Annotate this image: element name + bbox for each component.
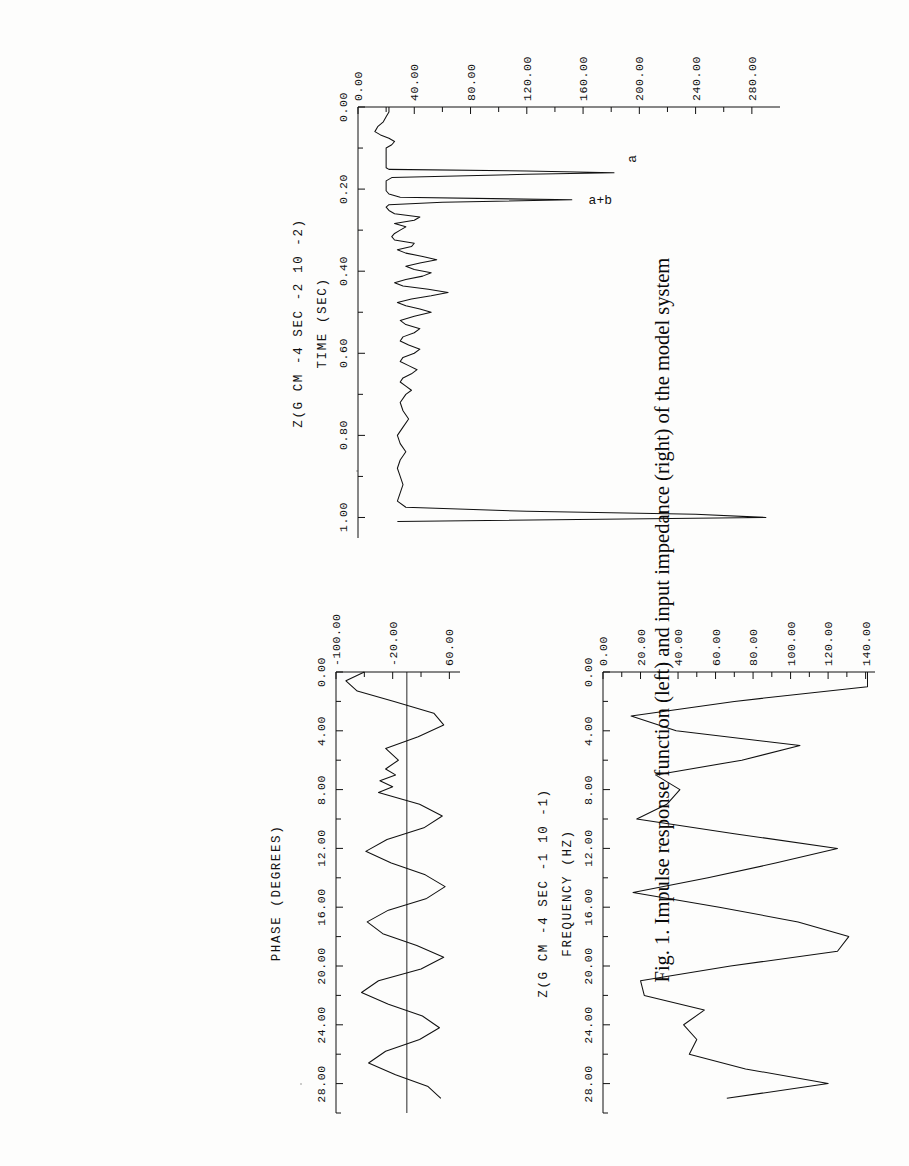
magnitude-x-tick-label: 4.00 (582, 716, 595, 746)
magnitude-x-tick-label: 0.00 (582, 657, 595, 687)
impedance-phase-plot (318, 598, 468, 1128)
impulse-y-tick-label: 40.00 (407, 63, 420, 101)
impulse-x-tick-label: 0.00 (337, 92, 350, 122)
impulse-y-axis-title: Z(G CM -4 SEC -2 10 -2) (292, 218, 306, 427)
magnitude-y-tick-label: 80.00 (746, 628, 759, 666)
phase-x-tick-label: 8.00 (315, 775, 328, 805)
phase-x-tick-label: 16.00 (315, 888, 328, 926)
phase-y-tick-label: 60.00 (442, 628, 455, 666)
phase-x-tick-label: 12.00 (315, 830, 328, 868)
magnitude-y-tick-label: 140.00 (859, 621, 872, 666)
magnitude-x-axis-title: FREQUENCY (HZ) (561, 829, 575, 956)
annotation-a: a (625, 155, 640, 163)
magnitude-y-tick-label: 100.00 (784, 621, 797, 666)
impulse-x-tick-label: 0.40 (337, 256, 350, 286)
magnitude-y-axis-title: Z(G CM -4 SEC -1 10 -1) (537, 788, 551, 997)
magnitude-x-tick-label: 12.00 (582, 830, 595, 868)
impulse-y-tick-label: 80.00 (464, 63, 477, 101)
impulse-x-tick-label: 0.60 (337, 338, 350, 368)
figure-page: 0.000.200.400.600.801.00 0.0040.0080.001… (0, 0, 909, 1166)
impulse-y-tick-label: 240.00 (689, 56, 702, 101)
magnitude-x-tick-label: 8.00 (582, 775, 595, 805)
magnitude-y-tick-label: 20.00 (634, 628, 647, 666)
phase-x-tick-label: 28.00 (315, 1065, 328, 1103)
impulse-response-curve (374, 107, 765, 522)
magnitude-y-tick-label: 0.00 (596, 636, 609, 666)
phase-x-tick-label: 20.00 (315, 947, 328, 985)
magnitude-x-tick-label: 28.00 (582, 1065, 595, 1103)
impulse-response-plot (318, 33, 788, 553)
phase-y-tick-label: -100.00 (329, 613, 342, 666)
phase-x-tick-label: 0.00 (315, 657, 328, 687)
impulse-y-tick-label: 120.00 (520, 56, 533, 101)
impulse-x-tick-label: 0.80 (337, 420, 350, 450)
impulse-x-tick-label: 1.00 (337, 502, 350, 532)
phase-x-tick-label: 24.00 (315, 1006, 328, 1044)
phase-x-tick-label: 4.00 (315, 716, 328, 746)
magnitude-x-tick-label: 20.00 (582, 947, 595, 985)
annotation-a-plus-b: a+b (588, 193, 611, 208)
impulse-y-tick-label: 200.00 (632, 56, 645, 101)
figure-body: 0.000.200.400.600.801.00 0.0040.0080.001… (183, 23, 883, 1143)
impulse-x-axis-title: TIME (SEC) (316, 277, 330, 368)
panel-impulse-response: 0.000.200.400.600.801.00 0.0040.0080.001… (193, 33, 883, 553)
magnitude-x-tick-label: 24.00 (582, 1006, 595, 1044)
impedance-magnitude-plot (583, 598, 883, 1128)
impulse-y-tick-label: 0.00 (351, 71, 364, 101)
impulse-x-tick-label: 0.20 (337, 174, 350, 204)
magnitude-y-tick-label: 60.00 (709, 628, 722, 666)
impedance-phase-curve (345, 672, 444, 1098)
figure-caption: Fig. 1. Impulse response function (left)… (651, 0, 674, 983)
magnitude-x-tick-label: 16.00 (582, 888, 595, 926)
phase-y-tick-label: -20.00 (386, 621, 399, 666)
magnitude-y-tick-label: 120.00 (821, 621, 834, 666)
phase-y-axis-title: PHASE (DEGREES) (270, 824, 284, 961)
panel-input-impedance: 0.004.008.0012.0016.0020.0024.0028.00 0.… (193, 598, 883, 1128)
impulse-y-tick-label: 280.00 (745, 56, 758, 101)
impulse-y-tick-label: 160.00 (576, 56, 589, 101)
